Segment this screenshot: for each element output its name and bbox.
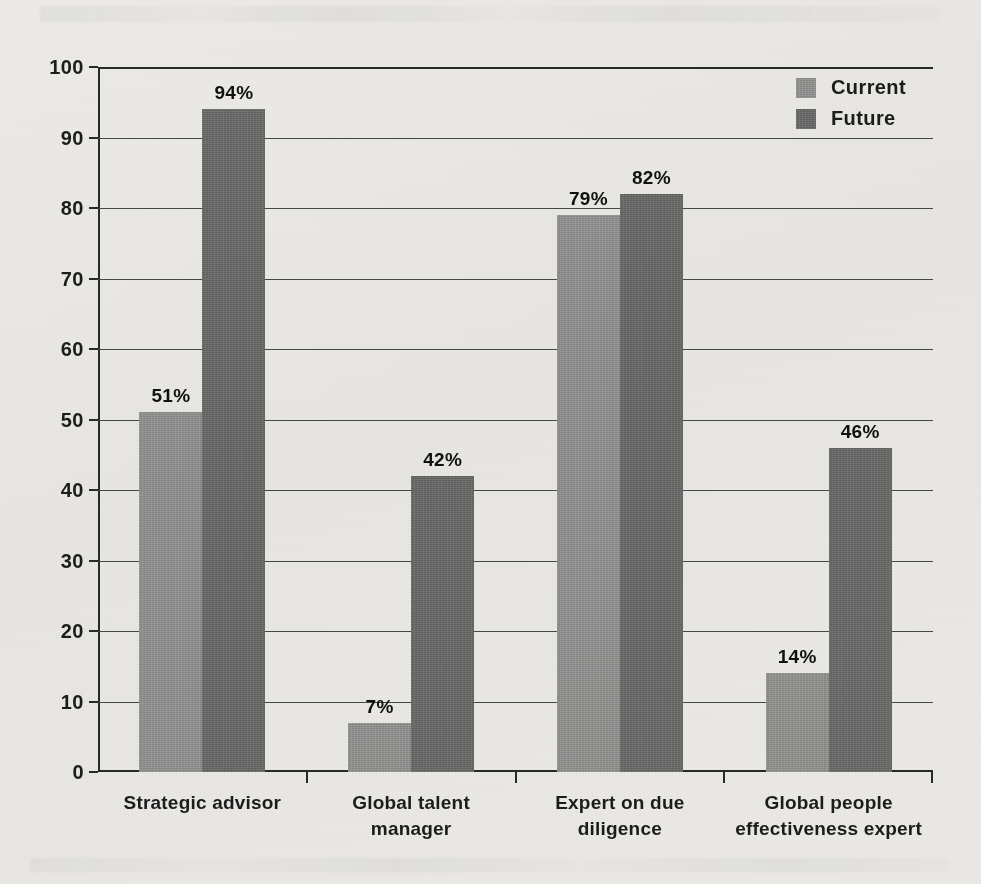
x-tick-mark-1 [515, 772, 517, 783]
gridline-100 [98, 67, 933, 69]
y-tick-label-50: 50 [61, 408, 84, 431]
bar-value-label-current-2: 79% [569, 188, 608, 210]
bar-value-label-current-1: 7% [366, 696, 394, 718]
y-tick-label-10: 10 [61, 690, 84, 713]
y-tick-mark-20 [89, 630, 98, 632]
bar-texture [411, 476, 474, 772]
bar-future-0: 94% [202, 109, 265, 772]
category-label-2: Expert on duediligence [516, 790, 725, 841]
bar-value-label-future-2: 82% [632, 167, 671, 189]
y-tick-mark-40 [89, 489, 98, 491]
bar-texture [557, 215, 620, 772]
bar-value-label-current-3: 14% [778, 646, 817, 668]
y-tick-label-60: 60 [61, 338, 84, 361]
category-label-1: Global talentmanager [307, 790, 516, 841]
bar-current-2: 79% [557, 215, 620, 772]
legend-label-current: Current [831, 76, 906, 99]
bar-texture [829, 448, 892, 772]
y-tick-label-70: 70 [61, 267, 84, 290]
y-tick-mark-100 [89, 66, 98, 68]
x-tick-mark-0 [306, 772, 308, 783]
y-tick-label-0: 0 [72, 761, 84, 784]
category-label-line: manager [307, 816, 516, 842]
bar-current-0: 51% [139, 412, 202, 772]
category-label-line: Global people [724, 790, 933, 816]
legend-swatch-texture [796, 78, 816, 98]
bar-value-label-future-0: 94% [214, 82, 253, 104]
bar-future-2: 82% [620, 194, 683, 772]
bar-current-1: 7% [348, 723, 411, 772]
y-tick-label-90: 90 [61, 126, 84, 149]
y-tick-mark-80 [89, 207, 98, 209]
y-tick-mark-60 [89, 348, 98, 350]
category-label-3: Global peopleeffectiveness expert [724, 790, 933, 841]
y-tick-label-30: 30 [61, 549, 84, 572]
x-tick-mark-end [931, 772, 933, 783]
grouped-bar-chart: 0102030405060708090100 51%94%7%42%79%82%… [0, 0, 981, 884]
category-label-line: diligence [516, 816, 725, 842]
legend-swatch-texture [796, 109, 816, 129]
bar-texture [202, 109, 265, 772]
y-tick-mark-90 [89, 137, 98, 139]
bar-future-1: 42% [411, 476, 474, 772]
legend-entry-current[interactable]: Current [796, 72, 906, 103]
y-tick-label-80: 80 [61, 197, 84, 220]
legend-entry-future[interactable]: Future [796, 103, 906, 134]
y-tick-mark-70 [89, 278, 98, 280]
bar-value-label-future-3: 46% [841, 421, 880, 443]
y-tick-mark-10 [89, 701, 98, 703]
category-label-line: Strategic advisor [98, 790, 307, 816]
bar-texture [766, 673, 829, 772]
category-label-0: Strategic advisor [98, 790, 307, 816]
y-tick-label-20: 20 [61, 620, 84, 643]
y-tick-label-40: 40 [61, 479, 84, 502]
category-label-line: effectiveness expert [724, 816, 933, 842]
bar-value-label-future-1: 42% [423, 449, 462, 471]
category-label-line: Global talent [307, 790, 516, 816]
y-tick-mark-50 [89, 419, 98, 421]
legend-label-future: Future [831, 107, 896, 130]
chart-legend: CurrentFuture [796, 72, 906, 134]
plot-area: 0102030405060708090100 51%94%7%42%79%82%… [98, 67, 933, 772]
bar-value-label-current-0: 51% [151, 385, 190, 407]
bar-current-3: 14% [766, 673, 829, 772]
legend-swatch-current-icon [796, 78, 816, 98]
x-tick-mark-2 [723, 772, 725, 783]
bar-texture [348, 723, 411, 772]
bar-texture [139, 412, 202, 772]
bar-texture [620, 194, 683, 772]
bar-future-3: 46% [829, 448, 892, 772]
y-tick-label-100: 100 [49, 56, 84, 79]
y-tick-mark-30 [89, 560, 98, 562]
legend-swatch-future-icon [796, 109, 816, 129]
category-label-line: Expert on due [516, 790, 725, 816]
y-tick-mark-0 [89, 771, 98, 773]
